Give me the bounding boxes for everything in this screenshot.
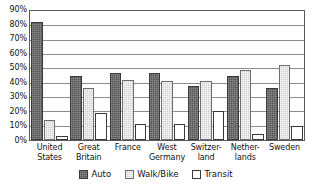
bar-walkbike <box>83 88 95 140</box>
bar-auto <box>70 76 82 141</box>
bar-auto <box>110 73 122 140</box>
y-axis-tick-label: 20% <box>10 108 27 116</box>
chart-legend: AutoWalk/BikeTransit <box>0 170 312 179</box>
x-axis-category-label: France <box>108 143 147 153</box>
bar-auto <box>227 76 239 141</box>
bar-auto <box>266 88 278 140</box>
bar-transit <box>56 136 68 140</box>
legend-item: Auto <box>79 170 111 179</box>
y-axis-tick-label: 40% <box>10 79 27 87</box>
bar-walkbike <box>161 81 173 140</box>
y-axis-tick-label: 30% <box>10 93 27 101</box>
y-axis-tick-label: 0% <box>15 137 28 145</box>
legend-swatch-auto-icon <box>79 170 88 179</box>
bar-group <box>30 11 69 140</box>
bar-group <box>108 11 147 140</box>
grouped-bar-chart: 90%80%70%60%50%40%30%20%10%0% United Sta… <box>0 0 312 194</box>
bar-transit <box>213 111 225 140</box>
bar-auto <box>188 86 200 140</box>
x-axis-category-label: Nether- lands <box>226 143 265 163</box>
bar-group <box>69 11 108 140</box>
bar-group <box>226 11 265 140</box>
bar-walkbike <box>44 120 56 140</box>
bar-transit <box>291 126 303 140</box>
bar-walkbike <box>240 70 252 140</box>
x-axis-category-label: West Germany <box>147 143 186 163</box>
bar-walkbike <box>122 80 134 140</box>
bar-auto <box>149 73 161 140</box>
y-axis: 90%80%70%60%50%40%30%20%10%0% <box>0 10 27 141</box>
bar-auto <box>31 22 43 140</box>
x-axis-category-label: Great Britain <box>69 143 108 163</box>
bar-transit <box>174 124 186 140</box>
y-axis-tick-label: 70% <box>10 35 27 43</box>
y-axis-tick-label: 10% <box>10 122 27 130</box>
y-axis-tick-label: 50% <box>10 64 27 72</box>
bar-walkbike <box>279 65 291 140</box>
bar-transit <box>252 134 264 140</box>
y-axis-tick-label: 80% <box>10 21 27 29</box>
bars-layer <box>30 11 304 140</box>
x-axis: United StatesGreat BritainFranceWest Ger… <box>30 143 304 167</box>
bar-transit <box>135 124 147 140</box>
bar-group <box>147 11 186 140</box>
legend-label: Auto <box>91 170 111 179</box>
bar-transit <box>95 113 107 140</box>
y-axis-tick-label: 60% <box>10 50 27 58</box>
legend-swatch-transit-icon <box>192 170 201 179</box>
bar-group <box>265 11 304 140</box>
legend-item: Walk/Bike <box>125 170 178 179</box>
legend-item: Transit <box>192 170 232 179</box>
bar-walkbike <box>200 81 212 140</box>
bar-group <box>187 11 226 140</box>
x-axis-category-label: Sweden <box>265 143 304 153</box>
legend-label: Transit <box>204 170 232 179</box>
legend-label: Walk/Bike <box>137 170 178 179</box>
legend-swatch-walkbike-icon <box>125 170 134 179</box>
y-axis-tick-label: 90% <box>10 6 27 14</box>
x-axis-category-label: Switzer- land <box>187 143 226 163</box>
x-axis-category-label: United States <box>30 143 69 163</box>
